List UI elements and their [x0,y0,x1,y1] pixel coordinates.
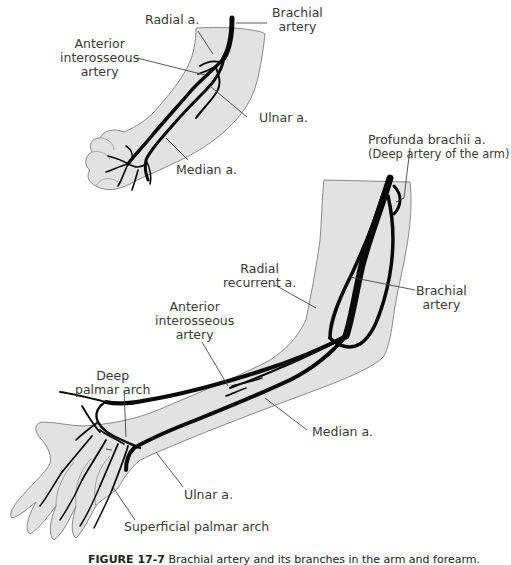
label-bottom-anterior-line3: artery [155,328,234,342]
label-top-anterior-interosseous: Anterior interosseous artery [60,37,139,79]
figure-caption-text: Brachial artery and its branches in the … [168,553,480,565]
label-top-brachial-line2: artery [272,20,323,34]
figure-caption: FIGURE 17-7 Brachial artery and its bran… [88,553,480,565]
label-radial-recurrent: Radial recurrent a. [223,262,296,290]
label-deep-arch-line1: Deep [75,369,150,383]
label-top-ulnar: Ulnar a. [259,111,308,125]
label-deep-arch-line2: palmar arch [75,383,150,397]
label-top-median: Median a. [176,163,237,177]
label-top-brachial: Brachial artery [272,6,323,34]
label-profunda-line2: (Deep artery of the arm) [368,147,510,161]
label-superficial-palmar-arch: Superficial palmar arch [124,520,269,534]
label-top-anterior-line1: Anterior [60,37,139,51]
label-radial-recurrent-line1: Radial [223,262,296,276]
label-bottom-anterior-line1: Anterior [155,300,234,314]
bottom-arm-figure [11,148,415,540]
label-deep-palmar-arch: Deep palmar arch [75,369,150,397]
label-top-anterior-line2: interosseous [60,51,139,65]
label-top-anterior-line3: artery [60,65,139,79]
label-bottom-brachial-line2: artery [416,298,467,312]
label-top-brachial-line1: Brachial [272,6,323,20]
label-profunda-brachii: Profunda brachii a. (Deep artery of the … [368,133,510,161]
label-top-radial: Radial a. [145,13,199,27]
label-bottom-anterior-interosseous: Anterior interosseous artery [155,300,234,342]
label-radial-recurrent-line2: recurrent a. [223,276,296,290]
label-bottom-brachial-line1: Brachial [416,284,467,298]
label-bottom-brachial: Brachial artery [416,284,467,312]
bottom-arm-skin [11,180,411,540]
label-profunda-line1: Profunda brachii a. [368,133,510,147]
label-bottom-ulnar: Ulnar a. [184,488,233,502]
figure-caption-label: FIGURE 17-7 [88,553,165,565]
label-bottom-median: Median a. [312,425,373,439]
label-bottom-anterior-line2: interosseous [155,314,234,328]
